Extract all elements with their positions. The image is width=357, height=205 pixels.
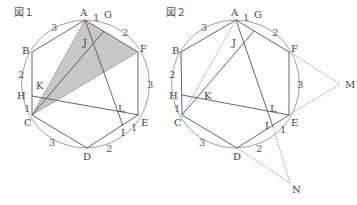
point-label-j: J <box>82 37 87 48</box>
point-label-n: N <box>292 184 301 195</box>
point-label-g: G <box>104 9 112 20</box>
figure-2-title: 図２ <box>166 7 186 18</box>
point-label-c: C <box>24 117 32 128</box>
segment-gc <box>182 31 254 115</box>
point-label-h: H <box>17 90 26 101</box>
arc-ratio-id: 2 <box>256 143 262 154</box>
arc-ratio-ag: 1 <box>243 12 249 23</box>
point-label-a: A <box>79 7 88 18</box>
point-label-i: I <box>265 120 269 131</box>
arc-ratio-hb: 2 <box>169 69 175 80</box>
arc-ratio-ei: 1 <box>280 124 286 135</box>
figure-canvas: 図１ A G F B H C D I E K J L 1 2 3 1 2 3 1… <box>0 0 357 205</box>
point-label-a: A <box>230 7 239 18</box>
point-label-d: D <box>83 151 91 162</box>
arc-ratio-gf: 2 <box>272 27 278 38</box>
point-label-i: I <box>121 127 125 138</box>
arc-ratio-dc: 3 <box>49 137 55 148</box>
point-label-h: H <box>169 90 178 101</box>
figure-2: 図２ A G F B H C D I E K J L M N 1 2 3 1 2… <box>166 7 355 195</box>
point-label-f: F <box>140 43 147 54</box>
point-label-b: B <box>172 45 179 56</box>
point-label-k: K <box>204 90 212 101</box>
arc-ratio-ag: 1 <box>93 12 99 23</box>
point-label-e: E <box>291 117 298 128</box>
point-label-f: F <box>291 43 298 54</box>
point-label-e: E <box>141 117 148 128</box>
point-label-m: M <box>345 79 355 90</box>
arc-ratio-ch: 1 <box>174 103 180 114</box>
point-label-b: B <box>22 45 29 56</box>
point-label-c: C <box>174 117 182 128</box>
point-label-d: D <box>233 151 241 162</box>
dashed-segment-in <box>273 127 290 183</box>
arc-ratio-dc: 3 <box>199 137 205 148</box>
arc-ratio-gf: 2 <box>122 27 128 38</box>
figure-1: 図１ A G F B H C D I E K J L 1 2 3 1 2 3 1… <box>14 7 153 162</box>
point-label-k: K <box>36 80 44 91</box>
arc-ratio-id: 2 <box>106 143 112 154</box>
arc-ratio-fe: 3 <box>297 79 303 90</box>
point-label-g: G <box>254 9 262 20</box>
point-label-j: J <box>231 37 236 48</box>
figure-1-title: 図１ <box>14 7 34 18</box>
arc-ratio-hb: 2 <box>18 69 24 80</box>
arc-ratio-ba: 3 <box>51 22 57 33</box>
point-label-l: L <box>118 103 125 114</box>
arc-ratio-ch: 1 <box>24 103 30 114</box>
arc-ratio-ei: 1 <box>131 122 137 133</box>
point-label-l: L <box>270 103 277 114</box>
arc-ratio-fe: 3 <box>147 79 153 90</box>
dashed-segment-dn <box>237 148 290 183</box>
arc-ratio-ba: 3 <box>201 22 207 33</box>
